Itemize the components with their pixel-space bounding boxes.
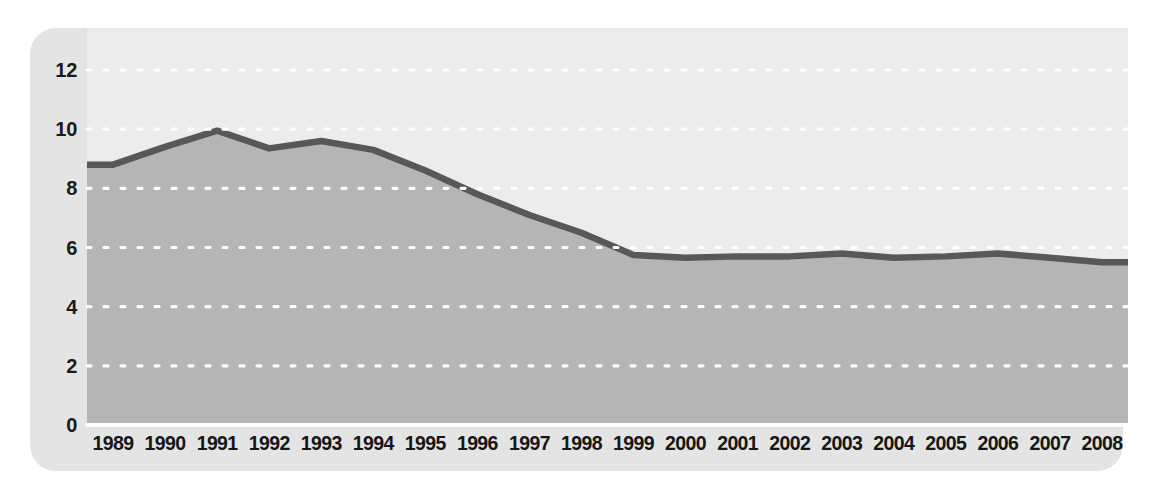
x-tick-label: 2006 [977,432,1018,455]
y-tick-label: 2 [66,354,77,377]
x-tick-label: 1995 [405,432,446,455]
x-tick-label: 2008 [1081,432,1122,455]
x-tick-label: 2000 [665,432,706,455]
x-tick-label: 2005 [925,432,966,455]
x-tick-label: 1994 [353,432,394,455]
x-tick-label: 2002 [769,432,810,455]
x-tick-label: 1998 [561,432,602,455]
x-tick-label: 2003 [821,432,862,455]
x-tick-label: 1997 [509,432,550,455]
plot-area [87,28,1128,425]
x-tick-label: 1993 [301,432,342,455]
x-tick-label: 1989 [93,432,134,455]
y-axis: 024681012 [30,28,87,438]
gridlines [87,28,1128,425]
x-tick-label: 2007 [1029,432,1070,455]
x-tick-label: 2004 [873,432,914,455]
x-tick-label: 1996 [457,432,498,455]
x-tick-label: 1990 [145,432,186,455]
y-tick-label: 4 [66,295,77,318]
x-tick-label: 2001 [717,432,758,455]
x-tick-label: 1992 [249,432,290,455]
y-tick-label: 10 [55,118,77,141]
y-tick-label: 6 [66,236,77,259]
figure-root: affect its budget for some time. There i… [0,0,1153,489]
y-tick-label: 12 [55,59,77,82]
x-axis: 1989199019911992199319941995199619971998… [30,432,1123,466]
y-tick-label: 8 [66,177,77,200]
x-tick-label: 1999 [613,432,654,455]
x-tick-label: 1991 [197,432,238,455]
